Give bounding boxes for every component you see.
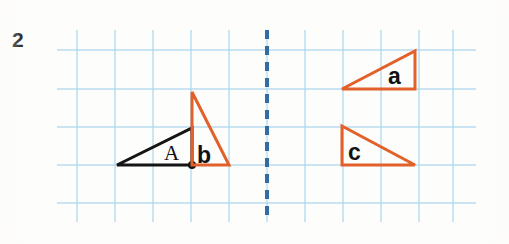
exercise-number: 2 (12, 28, 23, 52)
shape-label-c: c (348, 139, 361, 165)
shape-labels-group: Abac (164, 63, 401, 168)
triangle-a (342, 51, 415, 89)
figure-layer: Abac (0, 0, 509, 244)
shape-label-b: b (197, 142, 211, 168)
triangle-A (117, 128, 192, 165)
worksheet-page: Abac 2 (0, 0, 509, 244)
shape-label-A: A (164, 141, 180, 165)
shape-label-a: a (388, 63, 401, 89)
